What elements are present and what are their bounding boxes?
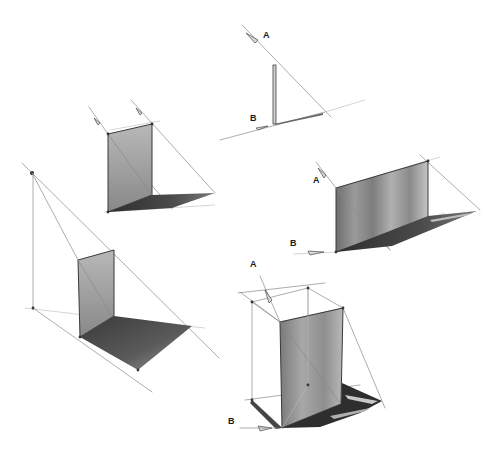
pole: [273, 65, 276, 124]
corner-node: [137, 369, 140, 372]
ground-extension-line: [325, 100, 365, 112]
corner-node: [151, 123, 154, 126]
pole-shadow: [274, 113, 323, 125]
pole-base-node: [32, 307, 35, 310]
ground-arrow-icon: [258, 426, 272, 431]
corner-node: [79, 336, 82, 339]
light-ray-line-left: [89, 107, 108, 134]
label-b: B: [290, 238, 297, 248]
light-ray-line-right: [420, 155, 480, 210]
box-top-right-edge: [308, 288, 343, 308]
corner-node: [307, 287, 310, 290]
corner-node: [307, 384, 310, 387]
corner-node: [427, 160, 430, 163]
box-top-back-edge: [238, 283, 325, 293]
ray-arrow-icon: [246, 33, 258, 43]
figure-pole: A B: [220, 25, 365, 140]
label-b: B: [228, 416, 235, 426]
corner-node: [251, 301, 254, 304]
label-a: A: [313, 175, 320, 185]
label-b: B: [250, 113, 257, 123]
label-a: A: [250, 259, 257, 269]
figure-wall-wide: A B: [290, 155, 480, 255]
corner-node: [342, 307, 345, 310]
figure-box-frame: A B: [228, 259, 385, 431]
box-base-shadow-edge: [250, 400, 282, 429]
diagram-canvas: A B A B: [0, 0, 485, 450]
ray-arrow-icon: [265, 290, 272, 303]
corner-node: [107, 211, 110, 214]
figure-wall-parallel-rays: [89, 100, 215, 213]
corner-node: [107, 133, 110, 136]
label-a: A: [263, 30, 270, 40]
light-ray-line-short: [32, 173, 78, 260]
corner-node: [335, 251, 338, 254]
corner-node: [251, 399, 254, 402]
